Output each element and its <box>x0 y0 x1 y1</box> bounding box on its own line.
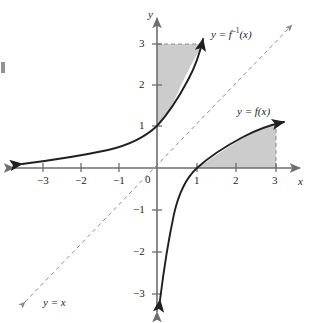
curve-label-identity: y = x <box>43 297 66 308</box>
y-tick-label--2: −2 <box>133 246 145 257</box>
y-tick-label--1: −1 <box>133 204 145 215</box>
x-tick-label--2: −2 <box>75 175 87 186</box>
shaded-region-under-f <box>197 123 276 168</box>
shaded-region-under-f-inverse <box>157 44 203 126</box>
y-tick-label--3: −3 <box>133 288 145 299</box>
curve-label-f-inverse-prefix: y = f <box>211 28 232 40</box>
y-tick-label-2: 2 <box>139 79 145 90</box>
y-tick-label-3: 3 <box>139 38 145 49</box>
curve-label-f-inverse-suffix: (x) <box>239 28 251 40</box>
x-tick-label-1: 1 <box>194 175 200 186</box>
origin-label: 0 <box>145 174 151 185</box>
x-tick-label--1: −1 <box>113 175 125 186</box>
curve-label-f: y = f(x) <box>237 106 270 117</box>
y-axis-label: y <box>148 9 153 20</box>
y-tick-label-1: 1 <box>139 120 145 131</box>
x-tick-label-2: 2 <box>233 175 239 186</box>
x-axis-label: x <box>298 176 303 187</box>
x-tick-label-3: 3 <box>272 175 278 186</box>
curve-label-f-inverse: y = f–1(x) <box>211 27 252 40</box>
graph-canvas <box>0 0 317 323</box>
figure-container: −3 −2 −1 1 2 3 0 3 2 1 −1 −2 −3 x y y = … <box>0 0 317 323</box>
x-tick-label--3: −3 <box>37 175 49 186</box>
